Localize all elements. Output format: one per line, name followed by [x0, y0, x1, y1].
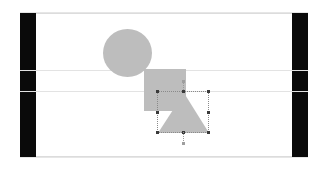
selection-overlay [157, 91, 209, 133]
rotation-pivot-stem-bottom [183, 132, 184, 142]
handle-top-right[interactable] [207, 90, 210, 93]
rotation-pivot-top[interactable] [182, 80, 185, 83]
right-margin-bar [292, 13, 308, 157]
handle-top-left[interactable] [156, 90, 159, 93]
handle-bottom-left[interactable] [156, 131, 159, 134]
left-margin-bar [20, 13, 36, 157]
handle-middle-left[interactable] [156, 111, 159, 114]
drawing-application [0, 0, 321, 171]
rotation-pivot-bottom[interactable] [182, 142, 185, 145]
handle-bottom-right[interactable] [207, 131, 210, 134]
handle-middle-right[interactable] [207, 111, 210, 114]
